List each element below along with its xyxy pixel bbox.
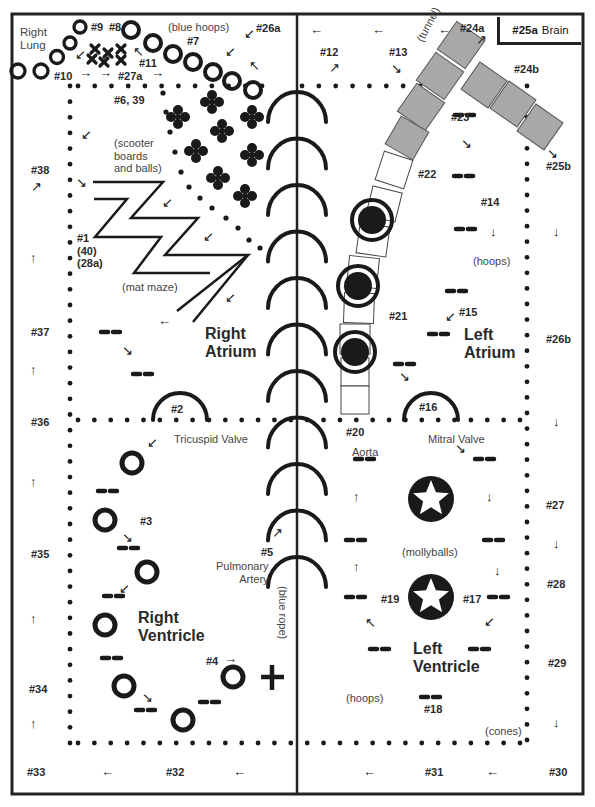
direction-arrow-icon: ↓ [490,225,497,238]
aorta-note: Aorta [352,446,378,459]
direction-arrow-icon: ↘ [461,137,472,150]
cones-note: (cones) [485,725,522,738]
direction-arrow-icon: ← [363,765,376,778]
left-atrium-label: Left Atrium [464,326,516,363]
station-label: #24b [514,63,539,76]
direction-arrow-icon: ← [233,765,246,778]
scooter-boards-note: (scooter boards and balls) [114,137,162,175]
scooter-quatrefoils [166,90,264,208]
direction-arrow-icon: ↑ [30,251,37,264]
station-label: #35 [31,548,49,561]
station-label: #21 [389,310,407,323]
hoops-note-left-ventricle: (hoops) [346,692,383,705]
direction-arrow-icon: ↙ [147,436,158,449]
station-label: #38 [31,164,49,177]
x-marks [88,45,125,66]
right-lung-label: Right Lung [20,26,47,52]
direction-arrow-icon: ← [158,314,171,327]
direction-arrow-icon: ↗ [31,180,42,193]
station-label: #27a [118,70,142,83]
station-label: #18 [424,703,442,716]
station-label: #5 [261,546,273,559]
station-label: #29 [548,657,566,670]
station-label: #34 [29,683,47,696]
station-label: #26a [256,22,280,35]
station-label: #33 [27,766,45,779]
station-label: #15 [459,306,477,319]
station-label: #19 [381,593,399,606]
station-label: #6, 39 [114,94,145,107]
direction-arrow-icon: ↖ [133,45,144,58]
direction-arrow-icon: ↙ [81,128,92,141]
station-label: #23 [451,111,469,124]
direction-arrow-icon: ↑ [353,490,360,503]
station-label: #3 [140,515,152,528]
blue-hoops-note: (blue hoops) [168,21,229,34]
station-label: #31 [425,766,443,779]
station-label: #17 [463,593,481,606]
station-label: #10 [54,70,72,83]
direction-arrow-icon: ↑ [30,363,37,376]
station-label: #25b [546,160,571,173]
hoops-note-left-atrium: (hoops) [473,255,510,268]
direction-arrow-icon: ↙ [75,48,86,61]
direction-arrow-icon: ↓ [553,415,560,428]
direction-arrow-icon: ↑ [30,717,37,730]
station-label: #7 [187,35,199,48]
mat-maze-line-2 [94,199,210,273]
direction-arrow-icon: ↘ [122,531,133,544]
station-label: #1 (40) (28a) [77,232,103,270]
direction-arrow-icon: ↓ [553,716,560,729]
station-label: #14 [481,196,499,209]
right-ventricle-label: Right Ventricle [138,609,205,646]
direction-arrow-icon: ↓ [486,490,493,503]
direction-arrow-icon: ↙ [162,196,173,209]
direction-arrow-icon: → [151,66,164,79]
station-label: #28 [547,578,565,591]
brain-box: #25a Brain [497,17,581,45]
direction-arrow-icon: ↘ [142,691,153,704]
direction-arrow-icon: ← [486,765,499,778]
station-label: #9 [91,21,103,34]
direction-arrow-icon: ← [438,23,451,36]
station-label: #32 [166,766,184,779]
direction-arrow-icon: ↖ [365,616,376,629]
station-label: #12 [320,46,338,59]
left-ventricle-label: Left Ventricle [413,640,480,677]
direction-arrow-icon: ↘ [399,370,410,383]
direction-arrow-icon: ↑ [30,612,37,625]
heart-obstacle-course-diagram: #25a Brain Right Lung Right Atrium Left … [0,0,595,807]
mat-maze-note: (mat maze) [122,281,178,294]
direction-arrow-icon: ↗ [329,61,340,74]
direction-arrow-icon: ← [310,23,323,36]
direction-arrow-icon: ↗ [272,526,283,539]
direction-arrow-icon: ↑ [353,560,360,573]
station-label: #13 [389,46,407,59]
diagram-artwork [0,0,595,807]
direction-arrow-icon: ↙ [119,582,130,595]
station-label: #26b [546,333,571,346]
direction-arrow-icon: ↑ [30,475,37,488]
plus-marker [261,665,284,690]
right-atrium-label: Right Atrium [205,325,257,362]
direction-arrow-icon: ↙ [484,615,495,628]
station-label: #2 [171,403,183,416]
station-label: #30 [549,766,567,779]
direction-arrow-icon: ↓ [553,537,560,550]
station-label: #22 [418,168,436,181]
pulmonary-artery-note: Pulmonary Artery [216,560,269,585]
station-label: #16 [419,401,437,414]
direction-arrow-icon: ↖ [249,59,260,72]
direction-arrow-icon: ↓ [553,225,560,238]
direction-arrow-icon: ↙ [225,291,236,304]
station-label: #36 [31,416,49,429]
brain-station-number: #25a [512,24,538,36]
direction-arrow-icon: ↘ [122,344,133,357]
station-label: #20 [346,426,364,439]
direction-arrow-icon: ↙ [203,230,214,243]
direction-arrow-icon: ↘ [455,442,466,455]
direction-arrow-icon: → [224,652,237,665]
direction-arrow-icon: ↘ [547,147,558,160]
direction-arrow-icon: ↙ [445,310,456,323]
mollyballs-note: (mollyballs) [402,546,458,559]
